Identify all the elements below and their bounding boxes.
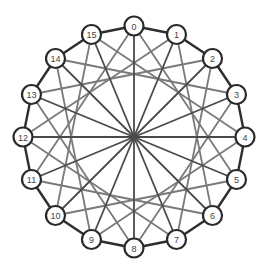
graph-node: 13: [22, 85, 41, 104]
graph-node: 14: [46, 49, 65, 68]
graph-node: 4: [236, 128, 255, 147]
chord-edge: [23, 35, 177, 138]
node-label: 9: [89, 235, 94, 245]
node-label: 11: [27, 175, 36, 185]
node-label: 6: [210, 211, 215, 221]
node-label: 14: [50, 54, 60, 64]
node-label: 2: [210, 54, 215, 64]
graph-node: 6: [203, 206, 222, 225]
node-label: 10: [50, 211, 60, 221]
chord-edge: [134, 95, 237, 249]
chord-edge: [134, 26, 237, 180]
node-label: 12: [18, 133, 28, 143]
graph-node: 10: [46, 206, 65, 225]
graph-node: 15: [82, 25, 101, 44]
chord-edge: [32, 95, 135, 249]
graph-node: 1: [167, 25, 186, 44]
graph-node: 5: [227, 170, 246, 189]
graph-node: 2: [203, 49, 222, 68]
node-label: 3: [234, 90, 239, 100]
graph-node: 9: [82, 230, 101, 249]
node-label: 13: [26, 90, 36, 100]
node-label: 0: [131, 22, 136, 32]
graph-node: 3: [227, 85, 246, 104]
graph-node: 11: [22, 170, 41, 189]
node-label: 7: [174, 235, 179, 245]
graph-node: 8: [125, 239, 144, 258]
chord-edge: [32, 26, 135, 180]
node-label: 1: [174, 30, 179, 40]
node-label: 15: [86, 30, 96, 40]
chord-edge: [23, 137, 177, 240]
graph-node: 12: [14, 128, 33, 147]
graph-node: 0: [125, 17, 144, 36]
node-label: 8: [131, 244, 136, 254]
chord-edge: [92, 35, 246, 138]
node-label: 5: [234, 175, 239, 185]
circulant-graph-diagram: 0123456789101112131415: [0, 0, 266, 272]
node-label: 4: [242, 133, 247, 143]
graph-node: 7: [167, 230, 186, 249]
chord-edge: [92, 137, 246, 240]
